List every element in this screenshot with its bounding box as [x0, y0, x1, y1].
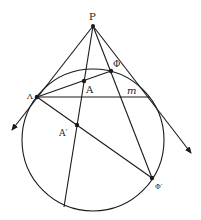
- label-Lambda: Λ: [26, 92, 33, 101]
- point-P: [91, 24, 95, 28]
- label-Phi: Φ: [113, 59, 120, 69]
- label-P: P: [89, 11, 96, 22]
- line-P-A: [64, 26, 93, 207]
- label-A-prime: A′: [58, 128, 68, 138]
- line-Lambda-PhiPrime: [37, 97, 152, 178]
- point-A: [82, 79, 86, 83]
- point-Phi: [109, 69, 113, 73]
- diagram-canvas: P Λ A Φ m A′ Φ′: [0, 0, 201, 220]
- point-A-prime: [75, 123, 79, 127]
- label-m: m: [127, 85, 136, 96]
- left-ray-from-P: [12, 26, 93, 130]
- label-A: A: [85, 84, 94, 95]
- point-Lambda: [35, 95, 40, 100]
- right-ray-from-P: [93, 26, 191, 153]
- point-Phi-prime: [150, 176, 154, 180]
- line-P-Phi: [93, 26, 152, 178]
- label-Phi-prime: Φ′: [155, 183, 163, 191]
